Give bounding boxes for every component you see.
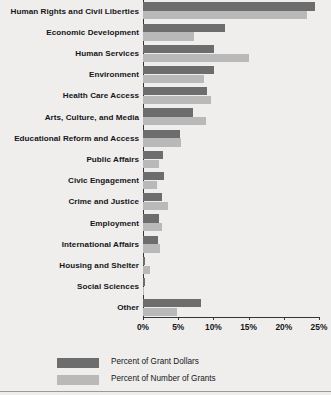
x-axis-tick [284,317,285,320]
bar-group [143,297,331,318]
category-label: Other [117,303,139,312]
bar-number-of-grants [143,223,162,231]
bar-grant-dollars [143,214,159,222]
x-axis-tick [319,317,320,320]
x-axis-tick [178,317,179,320]
category-label: Employment [90,218,139,227]
bar-chart: Human Rights and Civil LibertiesEconomic… [0,0,331,395]
bar-grant-dollars [143,24,225,32]
bar-grant-dollars [143,66,214,74]
chart-row: Civic Engagement [0,170,331,191]
category-label: Educational Reform and Access [14,133,139,142]
bar-number-of-grants [143,287,144,295]
bar-group [143,254,331,275]
bar-number-of-grants [143,308,177,316]
plot-area: Human Rights and Civil LibertiesEconomic… [0,0,331,318]
bar-grant-dollars [143,87,207,95]
x-axis-tick [213,317,214,320]
chart-row: International Affairs [0,233,331,254]
bar-number-of-grants [143,138,181,146]
chart-row: Employment [0,212,331,233]
x-axis-tick-label: 15% [240,322,257,332]
category-label: Social Sciences [77,282,139,291]
chart-row: Arts, Culture, and Media [0,106,331,127]
bar-number-of-grants [143,181,157,189]
category-label: Environment [89,70,139,79]
bar-grant-dollars [143,257,145,265]
x-axis-tick [143,317,144,320]
bar-number-of-grants [143,244,160,252]
category-label: Economic Development [46,27,139,36]
chart-row: Other [0,297,331,318]
bar-number-of-grants [143,266,150,274]
category-label: Civic Engagement [68,176,139,185]
bar-group [143,276,331,297]
legend-item-grant-dollars: Percent of Grant Dollars [57,356,307,373]
chart-legend: Percent of Grant Dollars Percent of Numb… [57,356,307,390]
bar-number-of-grants [143,32,194,40]
chart-row: Environment [0,64,331,85]
bar-grant-dollars [143,299,201,307]
category-label: Public Affairs [86,154,139,163]
bar-number-of-grants [143,160,159,168]
bar-group [143,42,331,63]
bar-grant-dollars [143,151,163,159]
legend-label-grant-dollars: Percent of Grant Dollars [111,357,199,366]
chart-row: Social Sciences [0,276,331,297]
legend-swatch-number-of-grants [57,375,99,385]
bar-grant-dollars [143,2,315,10]
bar-grant-dollars [143,193,162,201]
chart-row: Human Services [0,42,331,63]
bar-group [143,148,331,169]
bar-group [143,0,331,21]
chart-row: Crime and Justice [0,191,331,212]
x-axis-tick-label: 10% [205,322,222,332]
bar-group [143,191,331,212]
bar-number-of-grants [143,117,206,125]
bar-number-of-grants [143,11,307,19]
bar-group [143,21,331,42]
chart-row: Human Rights and Civil Liberties [0,0,331,21]
x-axis-tick-label: 5% [172,322,184,332]
legend-label-number-of-grants: Percent of Number of Grants [111,374,216,383]
bar-group [143,212,331,233]
chart-row: Public Affairs [0,148,331,169]
category-label: Human Services [75,48,139,57]
x-axis-line [143,317,319,318]
bar-group [143,127,331,148]
category-label: Human Rights and Civil Liberties [11,6,139,15]
chart-row: Economic Development [0,21,331,42]
category-label: International Affairs [62,239,139,248]
category-label: Crime and Justice [68,197,139,206]
x-axis-tick-label: 25% [311,322,328,332]
bar-grant-dollars [143,278,145,286]
chart-row: Educational Reform and Access [0,127,331,148]
bar-number-of-grants [143,75,204,83]
category-label: Health Care Access [63,91,139,100]
x-axis-tick [249,317,250,320]
bar-grant-dollars [143,236,158,244]
x-axis-tick-label: 20% [275,322,292,332]
legend-item-number-of-grants: Percent of Number of Grants [57,373,307,390]
bar-group [143,85,331,106]
bar-grant-dollars [143,172,164,180]
chart-row: Housing and Shelter [0,254,331,275]
bar-number-of-grants [143,202,168,210]
footer-divider [0,391,331,392]
bar-number-of-grants [143,54,249,62]
bar-group [143,106,331,127]
bar-group [143,170,331,191]
bar-grant-dollars [143,130,180,138]
category-label: Housing and Shelter [59,260,139,269]
legend-swatch-grant-dollars [57,358,99,368]
bar-grant-dollars [143,45,214,53]
category-label: Arts, Culture, and Media [45,112,139,121]
bar-group [143,233,331,254]
bar-number-of-grants [143,96,211,104]
bar-group [143,64,331,85]
bar-grant-dollars [143,108,193,116]
x-axis-tick-label: 0% [137,322,149,332]
chart-row: Health Care Access [0,85,331,106]
